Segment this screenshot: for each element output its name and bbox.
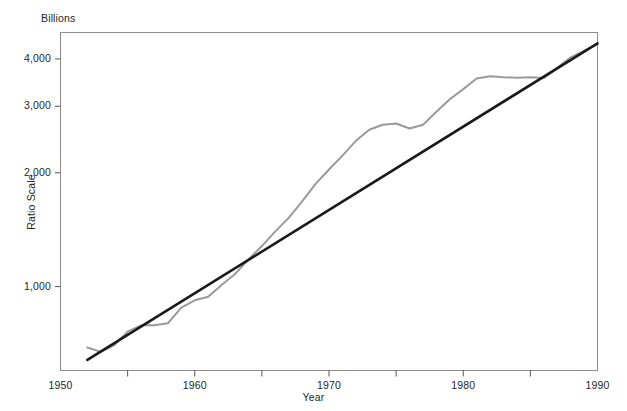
x-tick-label: 1980 <box>433 379 493 391</box>
plot-area <box>0 0 627 411</box>
series-line-trend <box>87 43 597 360</box>
axis-ticks <box>55 59 530 377</box>
chart-container: Billions Ratio Scale Year 1,0002,0003,00… <box>0 0 627 411</box>
x-tick-label: 1960 <box>165 379 225 391</box>
y-tick-label: 2,000 <box>3 166 51 178</box>
x-tick-label: 1950 <box>31 379 91 391</box>
y-tick-label: 4,000 <box>3 52 51 64</box>
y-tick-label: 1,000 <box>3 280 51 292</box>
plot-frame <box>61 33 598 371</box>
x-tick-label: 1970 <box>299 379 359 391</box>
x-tick-label: 1990 <box>568 379 627 391</box>
y-tick-label: 3,000 <box>3 99 51 111</box>
data-series-group <box>87 43 597 360</box>
